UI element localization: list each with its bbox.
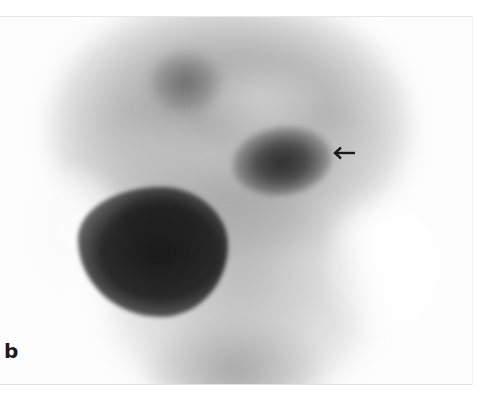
light-region-right: [330, 197, 450, 337]
left-arrow-icon: [332, 146, 356, 160]
panel-label: b: [4, 341, 18, 361]
upper-focal-spot: [150, 52, 220, 112]
large-dark-uptake-core: [120, 192, 200, 252]
image-frame: [0, 16, 473, 385]
